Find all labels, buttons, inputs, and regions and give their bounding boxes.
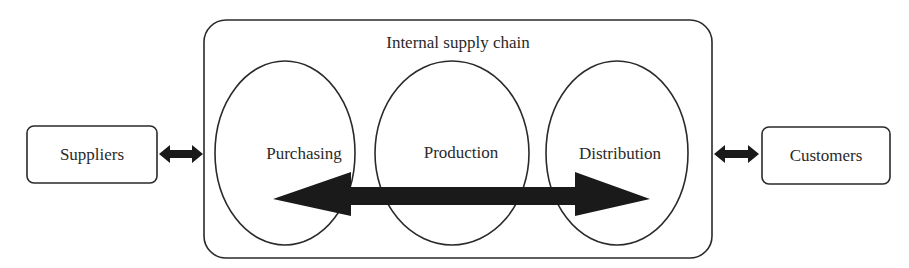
customer-flow-double-arrow-icon	[714, 145, 759, 163]
internal-flow-double-arrow-icon	[273, 172, 650, 216]
customers-label: Customers	[790, 146, 863, 165]
stage-label-distribution: Distribution	[579, 144, 662, 163]
internal-supply-chain-label: Internal supply chain	[386, 33, 530, 52]
stage-label-purchasing: Purchasing	[266, 144, 342, 163]
stage-label-production: Production	[424, 143, 499, 162]
internal-supply-chain-box	[204, 20, 712, 258]
suppliers-label: Suppliers	[60, 145, 124, 164]
supplier-flow-double-arrow-icon	[159, 145, 203, 163]
supply-chain-diagram: Internal supply chain Purchasing Product…	[0, 0, 909, 268]
